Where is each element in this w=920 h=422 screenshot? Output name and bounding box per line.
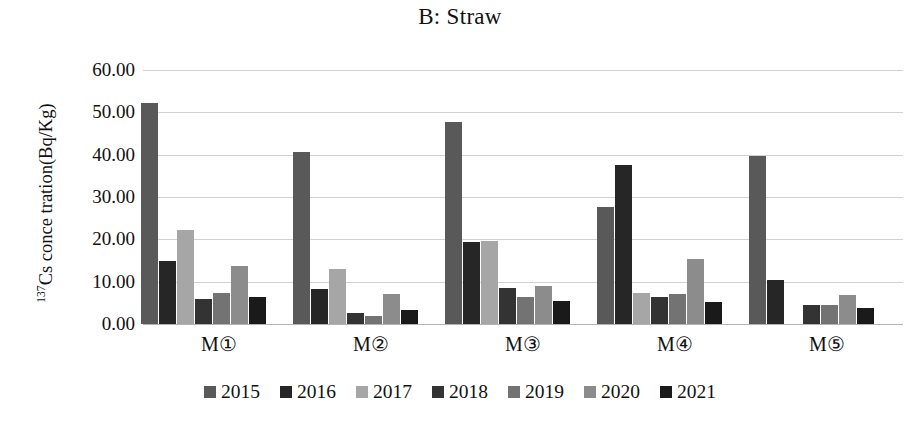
legend-item[interactable]: 2020 xyxy=(584,382,640,402)
bar xyxy=(293,152,310,324)
legend-label: 2016 xyxy=(297,382,336,402)
legend-label: 2019 xyxy=(525,382,564,402)
legend-item[interactable]: 2018 xyxy=(432,382,488,402)
legend-swatch-icon xyxy=(204,386,216,398)
bar xyxy=(383,294,400,324)
bar xyxy=(141,103,158,324)
y-axis-title-superscript: 137 xyxy=(35,285,48,302)
bar xyxy=(821,305,838,324)
x-tick-label: M② xyxy=(321,332,421,356)
bar xyxy=(365,316,382,324)
bar xyxy=(213,293,230,324)
legend-item[interactable]: 2017 xyxy=(356,382,412,402)
chart-container: B: Straw 137Cs conce tration(Bq/Kg) 60.0… xyxy=(0,0,920,422)
legend-swatch-icon xyxy=(584,386,596,398)
y-tick-label: 50.00 xyxy=(49,102,135,121)
legend-item[interactable]: 2021 xyxy=(660,382,716,402)
legend-swatch-icon xyxy=(280,386,292,398)
bar xyxy=(615,165,632,324)
gridline xyxy=(143,324,903,325)
bar xyxy=(669,294,686,324)
bar-group xyxy=(749,70,874,324)
bar xyxy=(195,299,212,324)
legend-label: 2015 xyxy=(221,382,260,402)
legend-label: 2018 xyxy=(449,382,488,402)
bar xyxy=(463,242,480,324)
legend-label: 2020 xyxy=(601,382,640,402)
bar xyxy=(159,261,176,324)
bar xyxy=(535,286,552,324)
x-tick-label: M① xyxy=(169,332,269,356)
bar xyxy=(481,241,498,324)
bar xyxy=(803,305,820,324)
bar xyxy=(401,310,418,324)
bar xyxy=(651,297,668,324)
legend-swatch-icon xyxy=(508,386,520,398)
chart-title: B: Straw xyxy=(0,4,920,30)
bar xyxy=(311,289,328,324)
bar xyxy=(329,269,346,324)
bar xyxy=(249,297,266,324)
legend: 2015201620172018201920202021 xyxy=(0,382,920,402)
legend-swatch-icon xyxy=(660,386,672,398)
y-tick-label: 60.00 xyxy=(49,60,135,79)
bar xyxy=(839,295,856,324)
bar xyxy=(231,266,248,324)
x-tick-label: M③ xyxy=(473,332,573,356)
x-tick-label: M⑤ xyxy=(777,332,877,356)
legend-label: 2017 xyxy=(373,382,412,402)
y-tick-label: 20.00 xyxy=(49,229,135,248)
legend-swatch-icon xyxy=(432,386,444,398)
bar xyxy=(517,297,534,324)
bar xyxy=(687,259,704,324)
legend-swatch-icon xyxy=(356,386,368,398)
bar xyxy=(705,302,722,324)
bar xyxy=(445,122,462,324)
bar xyxy=(767,280,784,324)
bar xyxy=(857,308,874,325)
bar xyxy=(749,156,766,324)
y-tick-label: 30.00 xyxy=(49,187,135,206)
bar xyxy=(499,288,516,324)
y-tick-label: 0.00 xyxy=(49,314,135,333)
bar-group xyxy=(597,70,722,324)
bar-group xyxy=(445,70,570,324)
legend-item[interactable]: 2016 xyxy=(280,382,336,402)
y-tick-label: 10.00 xyxy=(49,272,135,291)
bar-group xyxy=(141,70,266,324)
bar xyxy=(347,313,364,324)
legend-label: 2021 xyxy=(677,382,716,402)
legend-item[interactable]: 2015 xyxy=(204,382,260,402)
bar xyxy=(177,230,194,324)
plot-area xyxy=(143,70,903,324)
x-tick-label: M④ xyxy=(625,332,725,356)
bar xyxy=(633,293,650,324)
bar xyxy=(553,301,570,324)
y-tick-label: 40.00 xyxy=(49,145,135,164)
bar-group xyxy=(293,70,418,324)
bar xyxy=(597,207,614,324)
legend-item[interactable]: 2019 xyxy=(508,382,564,402)
